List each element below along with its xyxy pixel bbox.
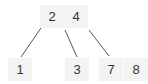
child-0-key-0: 1 xyxy=(8,58,32,81)
child-2-key-0: 7 xyxy=(99,58,123,81)
root-key-1: 4 xyxy=(64,5,88,28)
edge-root-to-child-3 xyxy=(65,30,77,57)
child-2-key-1: 8 xyxy=(124,58,148,81)
child-1-key-0: 3 xyxy=(65,58,89,81)
root-key-0: 2 xyxy=(40,5,64,28)
edge-root-to-child-78 xyxy=(89,30,109,56)
edge-root-to-child-1 xyxy=(21,28,41,57)
